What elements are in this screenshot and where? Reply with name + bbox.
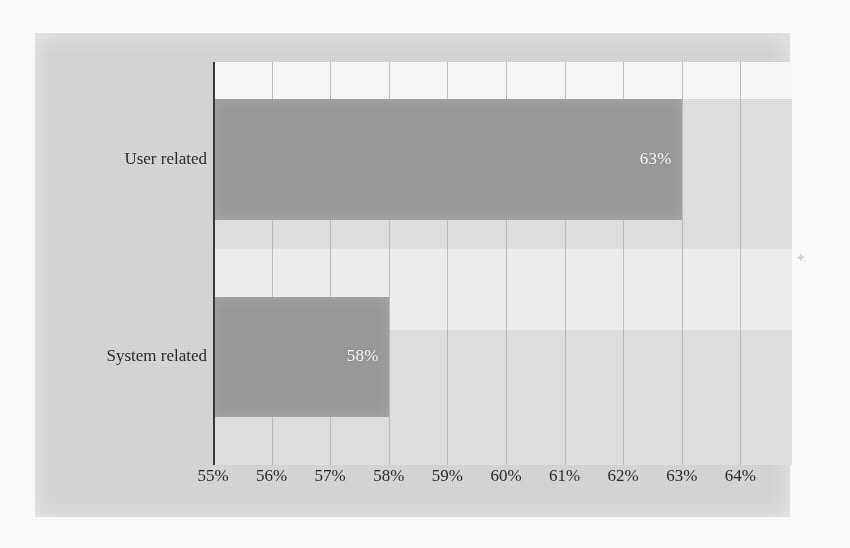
category-label-system-related: System related [106, 346, 207, 366]
x-tick-label-62: 62% [608, 466, 639, 486]
gridline-63 [682, 62, 683, 465]
x-tick-label-57: 57% [315, 466, 346, 486]
bar-value-label-system-related: 58% [347, 346, 379, 366]
x-tick-label-56: 56% [256, 466, 287, 486]
plot-band-upper [213, 62, 792, 99]
category-label-user-related: User related [124, 149, 207, 169]
gridline-64 [740, 62, 741, 465]
bar-user-related[interactable] [213, 99, 682, 220]
x-tick-label-55: 55% [197, 466, 228, 486]
value-axis-line [213, 62, 215, 465]
x-tick-label-58: 58% [373, 466, 404, 486]
x-tick-label-63: 63% [666, 466, 697, 486]
x-tick-label-61: 61% [549, 466, 580, 486]
scan-speck-icon [795, 252, 807, 264]
x-tick-label-59: 59% [432, 466, 463, 486]
bar-value-label-user-related: 63% [640, 149, 672, 169]
x-tick-label-64: 64% [725, 466, 756, 486]
chart-figure: 63%58% User relatedSystem related [35, 33, 790, 517]
x-tick-label-60: 60% [490, 466, 521, 486]
page-root: 63%58% User relatedSystem related 55%56%… [0, 0, 850, 548]
x-axis-tick-labels: 55%56%57%58%59%60%61%62%63%64% [35, 466, 790, 496]
category-labels-group: User relatedSystem related [35, 33, 207, 517]
